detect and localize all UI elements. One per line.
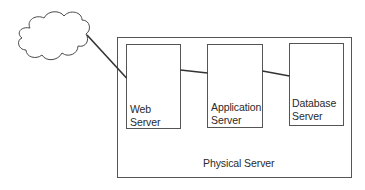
cloud-icon bbox=[19, 12, 90, 60]
web-to-app-connector bbox=[181, 70, 208, 73]
physical-server-label: Physical Server bbox=[203, 157, 274, 170]
diagram-canvas bbox=[0, 0, 365, 190]
app-to-db-connector bbox=[263, 71, 290, 76]
application-server-label-line1: Application bbox=[211, 101, 261, 114]
web-server-label: Web Server bbox=[130, 103, 160, 129]
application-server-label: Application Server bbox=[211, 101, 261, 127]
web-server-label-line1: Web bbox=[130, 103, 160, 116]
database-server-label: Database Server bbox=[292, 97, 336, 123]
database-server-label-line2: Server bbox=[292, 110, 336, 123]
web-server-label-line2: Server bbox=[130, 116, 160, 129]
application-server-label-line2: Server bbox=[211, 114, 261, 127]
database-server-label-line1: Database bbox=[292, 97, 336, 110]
cloud-to-web-connector bbox=[87, 35, 127, 78]
